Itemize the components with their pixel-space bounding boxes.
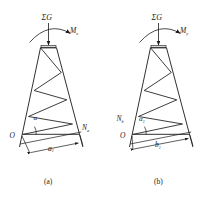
dimension-ext-left-a xyxy=(22,136,30,153)
angle-arc-a xyxy=(35,127,37,135)
dimension-label-b: b1 xyxy=(155,140,161,150)
angle-label-b: α1 xyxy=(139,115,145,124)
dimension-line-a xyxy=(20,132,81,144)
caption-b: (b) xyxy=(154,177,163,186)
tower-right-leg-a xyxy=(57,48,80,135)
figure-canvas: ΣG Mx O Na α a1 (a) ΣG xyxy=(0,0,203,200)
origin-label-a: O xyxy=(10,131,16,140)
angle-label-a: α xyxy=(34,114,38,122)
tower-right-leg-b xyxy=(167,48,190,135)
moment-label-b: My xyxy=(179,26,188,36)
reaction-label-a: Na xyxy=(81,123,89,133)
moment-arc-b xyxy=(140,29,181,43)
caption-a: (a) xyxy=(44,177,53,186)
tower-panel-a: ΣG Mx O Na α a1 (a) xyxy=(10,13,90,186)
load-label-b: ΣG xyxy=(151,13,163,22)
moment-label-a: Mx xyxy=(69,26,78,36)
dimension-line-b xyxy=(130,132,191,144)
dimension-arrow-b xyxy=(134,139,189,150)
dimension-label-a: a1 xyxy=(48,144,54,154)
dimension-ext-right-b xyxy=(190,135,193,146)
engineering-diagram: ΣG Mx O Na α a1 (a) ΣG xyxy=(0,0,203,200)
dimension-ext-left-b xyxy=(132,136,133,150)
moment-arc-a xyxy=(30,29,71,43)
dimension-arrow-a xyxy=(31,143,79,153)
dimension-ext-right-a xyxy=(80,135,83,146)
load-label-a: ΣG xyxy=(41,13,53,22)
angle-arc-b xyxy=(145,127,147,135)
reaction-label-b: Nb xyxy=(116,114,124,124)
tower-panel-b: ΣG My O Nb α1 b1 (b) xyxy=(116,13,193,186)
origin-label-b: O xyxy=(120,131,126,140)
tower-left-leg-a xyxy=(22,48,40,135)
tower-bracing-a xyxy=(23,48,72,135)
